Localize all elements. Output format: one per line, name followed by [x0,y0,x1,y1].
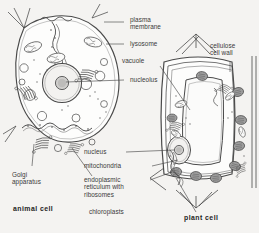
label-nucleolus: nucleolus [130,76,157,83]
label-plasma-membrane: plasma membrane [130,16,161,31]
label-vacuole: vacuole [122,57,144,64]
label-chloroplasts: chloroplasts [89,208,124,215]
animal-nucleus [43,64,82,103]
label-nucleus: nucleus [84,148,106,155]
title-animal-cell: animal cell [13,205,53,212]
label-lysosome: lysosome [130,40,157,47]
plant-cell-drawing [150,34,256,208]
label-endoplasmic-reticulum: endoplasmic reticulum with ribosomes [84,176,124,198]
label-cellulose-cell-wall: cellulose cell wall [210,42,235,57]
cell-diagram-artwork [0,0,259,233]
title-plant-cell: plant cell [184,214,218,221]
animal-cell-drawing [3,4,119,157]
label-mitochondria: mitochondria [84,162,121,169]
cell-diagram-figure: plasma membrane lysosome vacuole cellulo… [0,0,259,233]
label-golgi-apparatus: Golgi apparatus [12,171,41,186]
